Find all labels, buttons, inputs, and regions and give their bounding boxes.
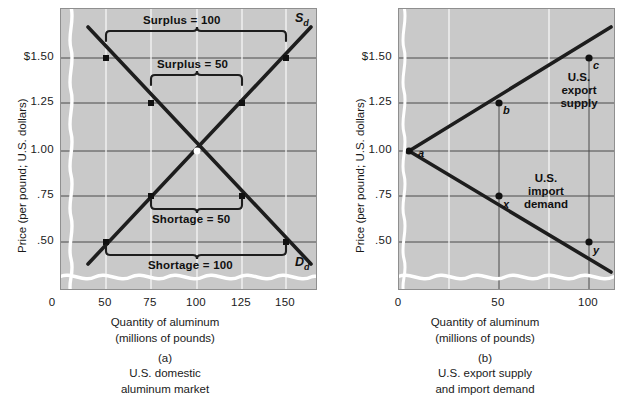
panel-a-caption-line2: aluminum market <box>0 383 330 395</box>
xtick-label-a-125: 125 <box>229 296 253 308</box>
annotation-surplus-100: Surplus = 100 <box>143 14 221 26</box>
x-axis-title-a-line2: (millions of pounds) <box>0 332 330 344</box>
export-supply-region-label: U.S. export supply <box>547 71 611 110</box>
ytick-label-b-125: 1.25 <box>344 95 392 107</box>
supply-label-sub: d <box>303 18 309 28</box>
xtick-label-b-100: 100 <box>576 296 600 308</box>
xtick-label-a-0: 0 <box>40 296 64 308</box>
chart-a-svg <box>61 9 316 289</box>
axis-break-y-b <box>403 8 405 290</box>
ytick-label-a-050: .50 <box>6 234 54 246</box>
xtick-label-a-150: 150 <box>273 296 297 308</box>
import-label-line2: import <box>509 185 583 198</box>
import-label-line3: demand <box>509 198 583 211</box>
xtick-label-a-50: 50 <box>93 296 117 308</box>
panel-b-caption-line1: U.S. export supply <box>330 367 640 379</box>
ytick-label-b-100: 1.00 <box>344 143 392 155</box>
ytick-label-b-150: $1.50 <box>344 50 392 62</box>
import-demand-curve <box>409 151 611 272</box>
panel-b-caption-line2: and import demand <box>330 383 640 395</box>
ytick-label-a-075: .75 <box>6 188 54 200</box>
x-axis-title-b-line2: (millions of pounds) <box>330 332 640 344</box>
marker-dd-75 <box>148 100 154 106</box>
ytick-label-b-075: .75 <box>344 188 392 200</box>
demand-label-text: D <box>295 255 304 269</box>
point-label-c: c <box>593 59 599 71</box>
axis-break-y-a <box>70 8 72 290</box>
marker-point-c <box>585 54 592 61</box>
demand-curve-label-dd: Dd <box>295 255 310 272</box>
marker-sd-125 <box>239 100 245 106</box>
export-label-line1: U.S. <box>547 71 611 84</box>
ytick-label-a-100: 1.00 <box>6 143 54 155</box>
marker-point-a <box>405 147 412 154</box>
point-label-y: y <box>593 244 599 256</box>
marker-point-y <box>585 238 592 245</box>
x-axis-title-b-line1: Quantity of aluminum <box>330 316 640 328</box>
xtick-label-b-0: 0 <box>386 296 410 308</box>
point-label-a: a <box>418 147 424 159</box>
panel-a-caption-line1: U.S. domestic <box>0 367 330 379</box>
axis-break-x-a <box>60 275 317 278</box>
xtick-label-a-75: 75 <box>138 296 162 308</box>
ytick-label-a-125: 1.25 <box>6 95 54 107</box>
xtick-label-b-50: 50 <box>486 296 510 308</box>
panel-b-caption-id: (b) <box>330 352 640 364</box>
panel-a-caption-id: (a) <box>0 352 330 364</box>
chart-b-svg <box>399 9 614 289</box>
marker-point-b <box>495 99 502 106</box>
marker-equilibrium-a <box>194 148 201 155</box>
ytick-label-a-150: $1.50 <box>6 50 54 62</box>
ytick-label-b-050: .50 <box>344 234 392 246</box>
annotation-surplus-50: Surplus = 50 <box>157 58 228 70</box>
panel-a-domestic-market: Surplus = 100 Surplus = 50 Shortage = 50… <box>0 0 330 386</box>
export-label-line3: supply <box>547 97 611 110</box>
panel-b-export-import: a b c x y U.S. export supply U.S. import… <box>330 0 640 386</box>
x-axis-title-a-line1: Quantity of aluminum <box>0 316 330 328</box>
marker-sd-150 <box>283 55 289 61</box>
bracket-shortage-100 <box>106 245 286 259</box>
xtick-label-a-100: 100 <box>184 296 208 308</box>
demand-label-sub: d <box>304 262 310 272</box>
plot-area-b: a b c x y U.S. export supply U.S. import… <box>398 8 615 290</box>
plot-area-a: Surplus = 100 Surplus = 50 Shortage = 50… <box>60 8 317 290</box>
y-axis-title-b: Price (per pound; U.S. dollars) <box>354 98 366 253</box>
supply-curve-label-sd: Sd <box>295 11 309 28</box>
annotation-shortage-50: Shortage = 50 <box>152 213 230 225</box>
import-label-line1: U.S. <box>509 172 583 185</box>
bracket-surplus-100 <box>106 27 286 41</box>
export-label-line2: export <box>547 84 611 97</box>
point-label-b: b <box>503 104 510 116</box>
annotation-shortage-100: Shortage = 100 <box>148 259 233 271</box>
import-demand-region-label: U.S. import demand <box>509 172 583 211</box>
marker-point-x <box>495 192 502 199</box>
y-axis-title-a: Price (per pound; U.S. dollars) <box>16 98 28 253</box>
axis-break-x-b <box>398 275 615 278</box>
marker-dd-50 <box>103 55 109 61</box>
